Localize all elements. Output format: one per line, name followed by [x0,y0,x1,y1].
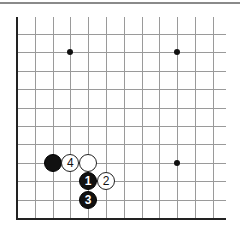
move-number: 1 [85,175,92,187]
white-stone: 4 [61,154,79,172]
white-stone: 2 [97,172,115,190]
grid-line-vertical [53,17,54,218]
grid-line-vertical [124,17,125,218]
move-number: 3 [85,194,92,206]
grid-line-vertical [35,17,36,218]
grid-line-vertical [159,17,160,218]
black-stone: 3 [79,191,97,209]
board-edge-left [16,17,18,220]
grid-line-vertical [142,17,143,218]
move-number: 2 [103,175,110,187]
star-point [174,49,180,55]
black-stone: 1 [79,172,97,190]
grid-line-vertical [70,17,71,218]
go-board: 4123 [0,0,240,235]
star-point [174,160,180,166]
grid-line-vertical [195,17,196,218]
star-point [67,49,73,55]
board-edge-bottom [16,218,226,220]
white-stone [79,154,97,172]
grid-line-vertical [177,17,178,218]
grid-line-vertical [213,17,214,218]
move-number: 4 [67,157,74,169]
black-stone [44,154,62,172]
